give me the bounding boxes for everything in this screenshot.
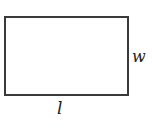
width-label: w <box>132 49 146 65</box>
rectangle-shape <box>4 16 129 96</box>
length-label: l <box>57 100 62 117</box>
